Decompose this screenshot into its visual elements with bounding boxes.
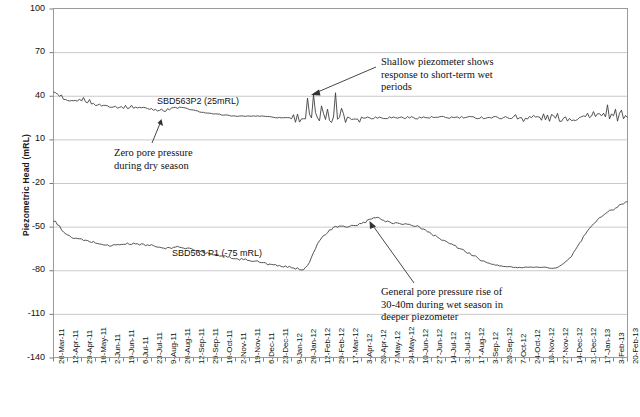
data-series-layer <box>54 92 628 270</box>
plot-frame <box>54 9 628 358</box>
annotation-zero-pore-pressure: Zero pore pressure during dry season <box>114 147 193 172</box>
series-label-shallow: SBD563P2 (25mRL) <box>157 96 239 106</box>
grid-lines <box>50 9 628 362</box>
arrowhead-shallow-response <box>311 90 321 96</box>
annotation-shallow-response: Shallow piezometer shows response to sho… <box>381 56 494 94</box>
arrow-shallow-response <box>313 67 376 94</box>
series-line-deep <box>54 202 628 270</box>
series-label-deep: SBD563 P1 (-75 mRL) <box>172 248 262 258</box>
arrowhead-zero-pore-pressure <box>158 119 164 126</box>
arrow-general-rise <box>371 223 414 283</box>
annotation-general-rise: General pore pressure rise of 30-40m dur… <box>381 286 503 324</box>
arrowhead-general-rise <box>370 221 377 229</box>
